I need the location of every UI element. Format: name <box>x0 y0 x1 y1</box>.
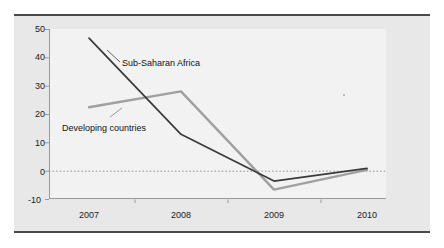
chart-plot-svg <box>0 0 444 248</box>
leader-line-sub-saharan-africa <box>107 50 120 62</box>
series-line-sub-saharan-africa <box>89 38 367 181</box>
y-axis-ticks <box>45 30 49 200</box>
x-axis-ticks <box>135 200 321 204</box>
chart-figure: 50 40 30 20 10 0 -10 2007 2008 2009 2010… <box>0 0 444 248</box>
leader-line-developing-countries <box>110 108 122 117</box>
